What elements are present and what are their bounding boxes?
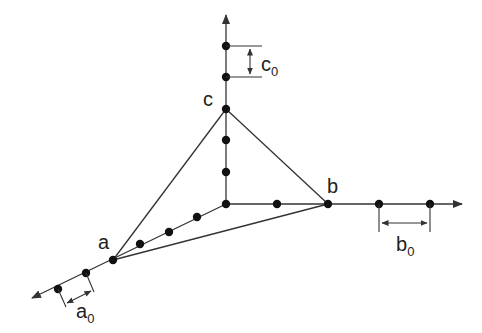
label-c: c — [203, 88, 213, 110]
label-a: a — [98, 231, 110, 253]
edge-a-b — [113, 204, 328, 260]
crystal-lattice-diagram: a b c c0 b0 a0 — [0, 0, 482, 333]
lattice-point — [136, 240, 144, 248]
lattice-point — [273, 200, 281, 208]
lattice-point — [165, 228, 173, 236]
c0-dimension — [226, 46, 262, 77]
label-b0: b0 — [396, 233, 414, 259]
lattice-point — [324, 200, 332, 208]
label-c0: c0 — [261, 53, 278, 79]
lattice-point — [193, 213, 201, 221]
lattice-point — [222, 105, 230, 113]
axes — [32, 15, 462, 298]
lattice-points — [54, 42, 434, 293]
lattice-plane-triangle — [113, 109, 328, 260]
lattice-point — [109, 256, 117, 264]
edge-a-c — [113, 109, 226, 260]
lattice-point — [222, 168, 230, 176]
label-b: b — [327, 175, 338, 197]
label-a0: a0 — [76, 300, 94, 326]
lattice-point — [222, 200, 230, 208]
lattice-point — [222, 136, 230, 144]
b0-dimension — [379, 204, 430, 232]
edge-c-b — [226, 109, 328, 204]
